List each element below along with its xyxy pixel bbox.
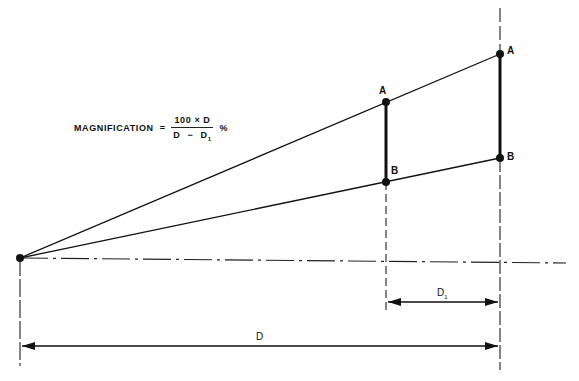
formula-unit: %: [219, 123, 228, 133]
point-outer-A: [496, 50, 504, 58]
magnification-formula: MAGNIFICATION = 100 × D D − D1 %: [74, 115, 228, 142]
formula-lhs: MAGNIFICATION: [74, 123, 154, 133]
point-outer-B: [496, 154, 504, 162]
label-outer-B: B: [507, 152, 514, 162]
formula-numerator: 100 × D: [171, 115, 213, 128]
point-inner-B: [382, 178, 390, 186]
label-outer-A: A: [507, 46, 514, 56]
label-inner-A: A: [379, 86, 386, 96]
origin-point: [16, 254, 24, 262]
optical-axis: [20, 258, 566, 263]
label-inner-B: B: [391, 166, 398, 176]
point-inner-A: [382, 98, 390, 106]
label-d1: D1: [437, 288, 448, 300]
ray-upper: [20, 54, 500, 258]
magnification-diagram: [0, 0, 579, 381]
formula-fraction: 100 × D D − D1: [171, 115, 213, 142]
label-d: D: [256, 332, 263, 342]
formula-equals: =: [160, 123, 166, 133]
ray-lower: [20, 158, 500, 258]
formula-denominator: D − D1: [173, 128, 211, 142]
